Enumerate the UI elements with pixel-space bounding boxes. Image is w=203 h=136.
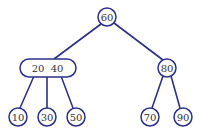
edge-60-2040 bbox=[54, 24, 101, 59]
node-20-40: 20 40 bbox=[20, 59, 76, 77]
node-90: 90 bbox=[174, 108, 192, 126]
node-label: 80 bbox=[161, 63, 174, 74]
node-10: 10 bbox=[9, 108, 27, 126]
node-label-20: 20 bbox=[32, 63, 45, 74]
node-60: 60 bbox=[98, 8, 116, 26]
edge-2040-10 bbox=[20, 76, 34, 108]
node-label: 60 bbox=[101, 12, 114, 23]
node-80: 80 bbox=[158, 59, 176, 77]
node-label: 90 bbox=[177, 112, 190, 123]
node-50: 50 bbox=[67, 108, 85, 126]
edge-80-70 bbox=[152, 76, 163, 108]
node-label: 70 bbox=[144, 112, 157, 123]
edge-80-90 bbox=[171, 76, 180, 108]
tree-diagram: 60 20 40 80 10 30 50 70 90 bbox=[0, 0, 203, 136]
node-30: 30 bbox=[38, 108, 56, 126]
edge-60-80 bbox=[114, 23, 163, 60]
node-label: 30 bbox=[41, 112, 54, 123]
node-70: 70 bbox=[141, 108, 159, 126]
node-label: 10 bbox=[12, 112, 25, 123]
node-label: 50 bbox=[70, 112, 83, 123]
node-label-40: 40 bbox=[51, 63, 64, 74]
edge-2040-50 bbox=[61, 76, 73, 108]
